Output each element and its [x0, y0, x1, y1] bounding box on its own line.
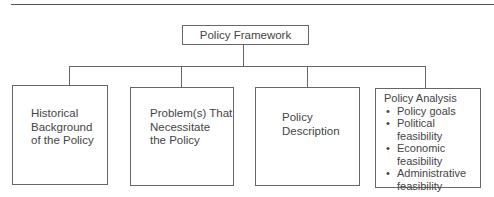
connector-child-1 — [69, 66, 70, 85]
node-line: Policy — [282, 111, 340, 125]
node-problems: Problem(s) That Necessitate the Policy — [130, 87, 234, 186]
connector-horizontal — [69, 66, 426, 67]
top-rule — [11, 4, 494, 5]
node-heading: Policy Analysis — [384, 92, 480, 105]
bullet-list: Policy goals Political feasibility Econo… — [384, 105, 480, 193]
node-historical-background: Historical Background of the Policy — [12, 85, 108, 185]
bullet-item: Political feasibility — [384, 117, 480, 142]
bullet-item: Policy goals — [384, 105, 480, 118]
node-policy-description: Policy Description — [255, 87, 360, 186]
connector-child-2 — [181, 66, 182, 87]
node-line: Problem(s) That — [150, 107, 232, 121]
connector-child-4 — [425, 66, 426, 88]
node-line: the Policy — [150, 134, 232, 148]
root-node-label: Policy Framework — [183, 29, 308, 41]
node-line: Background — [31, 121, 94, 135]
bullet-item: Economicfeasibility — [384, 142, 480, 167]
node-line: Historical — [31, 107, 94, 121]
node-line: Necessitate — [150, 121, 232, 135]
root-node-policy-framework: Policy Framework — [182, 25, 309, 45]
node-line: Description — [282, 125, 340, 139]
connector-child-3 — [307, 66, 308, 87]
connector-root-down — [243, 44, 244, 66]
node-line: of the Policy — [31, 134, 94, 148]
node-policy-analysis: Policy Analysis Policy goals Political f… — [375, 88, 481, 188]
bullet-item: Administrativefeasibility — [384, 167, 480, 192]
